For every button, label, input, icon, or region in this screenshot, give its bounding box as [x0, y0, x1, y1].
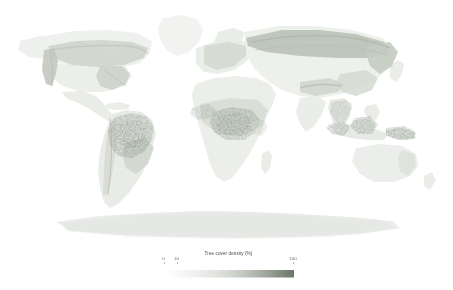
- legend-tick-mark-10: [177, 262, 178, 264]
- legend-tick-mark-0: [164, 262, 165, 264]
- colorbar-legend: Tree cover density (%): [163, 251, 294, 275]
- colorbar-gradient: [163, 264, 294, 272]
- legend-tick-label-10: 10: [174, 256, 179, 261]
- legend-title: Tree cover density (%): [163, 251, 294, 257]
- world-map-svg: [0, 8, 453, 246]
- legend-tick-mark-100: [293, 262, 294, 264]
- legend-tick-label-0: 0: [162, 256, 164, 261]
- world-map-panel: [0, 8, 453, 246]
- colorbar-svg: [163, 270, 294, 278]
- legend-tick-label-100: 100: [289, 256, 296, 261]
- figure-canvas: Tree cover density (%): [0, 0, 453, 290]
